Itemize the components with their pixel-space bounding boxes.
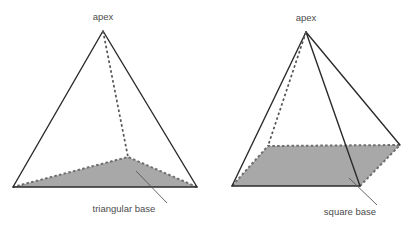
square-base-fill	[232, 145, 400, 186]
square-base-label: square base	[324, 206, 376, 217]
triangular-base-fill	[13, 157, 197, 187]
hidden-edge-apex-to-back-left	[268, 32, 306, 146]
triangular-pyramid-hidden-edges	[103, 31, 128, 157]
edge-apex-to-back-right	[306, 32, 400, 145]
triangular-base-label: triangular base	[93, 203, 156, 214]
edge-apex-to-front-left	[13, 31, 103, 187]
triangular-pyramid: apex triangular base	[13, 11, 197, 214]
square-pyramid: apex square base	[232, 12, 400, 217]
apex-label-left: apex	[93, 11, 114, 22]
square-pyramid-hidden-edges	[268, 32, 306, 146]
apex-label-right: apex	[296, 12, 317, 23]
hidden-edge-apex-to-back	[103, 31, 128, 157]
diagram-canvas: apex triangular base apex square base	[0, 0, 420, 232]
geometry-figure: apex triangular base apex square base	[0, 0, 420, 232]
